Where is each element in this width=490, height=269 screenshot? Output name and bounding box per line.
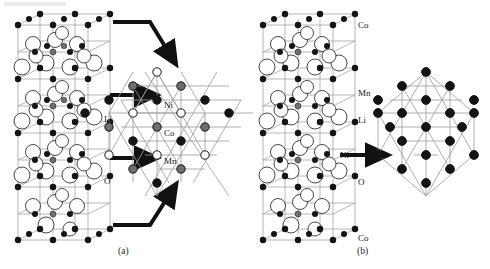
panel-b-unit-cell: [259, 11, 358, 243]
site-m: [446, 82, 455, 91]
site-m: [422, 123, 431, 132]
label-lattice-a-mn: Mn: [164, 157, 177, 166]
site-m: [446, 137, 455, 146]
site-m: [374, 151, 383, 160]
site-ni: [153, 68, 161, 76]
label-cell-b-o: O: [358, 178, 365, 187]
site-m: [398, 109, 407, 118]
site-ni: [105, 151, 113, 159]
arrow-bent-down-a: [113, 22, 166, 48]
scan-artifact: [4, 2, 66, 6]
site-m: [446, 165, 455, 174]
arrow-bent-up-a: [113, 200, 166, 225]
site-m: [422, 151, 431, 160]
site-mn: [177, 82, 185, 90]
site-co: [153, 179, 161, 187]
panel-b-lattice: [374, 68, 479, 196]
panel-a-unit-cell: [14, 11, 113, 243]
label-cell-b-li: Li: [358, 116, 366, 125]
crystal-structure-figure: [0, 0, 490, 269]
site-co: [81, 109, 89, 117]
label-cell-b-co-top: Co: [358, 21, 369, 30]
site-mn: [177, 165, 185, 173]
label-cell-b-ni: Ni: [340, 151, 349, 160]
site-co: [177, 137, 185, 145]
site-ni: [177, 109, 185, 117]
label-lattice-a-ni: Ni: [164, 101, 173, 110]
label-lattice-a-co: Co: [164, 129, 175, 138]
site-ni: [201, 151, 209, 159]
site-mn: [105, 123, 113, 131]
site-m: [458, 123, 467, 132]
site-m: [398, 165, 407, 174]
site-co: [153, 96, 161, 104]
site-m: [446, 109, 455, 118]
site-co: [201, 96, 209, 104]
site-ni: [129, 109, 137, 117]
caption-panel-b: (b): [357, 246, 368, 256]
site-m: [470, 151, 479, 160]
site-co: [105, 96, 113, 104]
site-m: [470, 96, 479, 105]
site-m: [470, 109, 479, 118]
label-cell-b-mn: Mn: [358, 89, 371, 98]
site-m: [422, 68, 431, 77]
site-m: [422, 96, 431, 105]
site-ni: [153, 151, 161, 159]
site-m: [398, 137, 407, 146]
figure-canvas: Li O Ni Co Mn (a) Co Mn Li Ni O Co (b): [0, 0, 490, 269]
label-cell-a-o: O: [104, 177, 111, 186]
label-cell-a-li: Li: [104, 115, 112, 124]
site-co: [129, 137, 137, 145]
caption-panel-a: (a): [118, 246, 129, 256]
site-m: [374, 96, 383, 105]
site-co: [225, 109, 233, 117]
site-m: [422, 179, 431, 188]
site-mn: [201, 123, 209, 131]
site-m: [374, 109, 383, 118]
site-mn: [129, 82, 137, 90]
site-mn: [129, 165, 137, 173]
site-mn: [153, 123, 161, 131]
site-m: [398, 82, 407, 91]
lattice-bonds-b: [378, 72, 474, 196]
label-cell-b-co-bottom: Co: [358, 234, 369, 243]
site-m: [386, 123, 395, 132]
